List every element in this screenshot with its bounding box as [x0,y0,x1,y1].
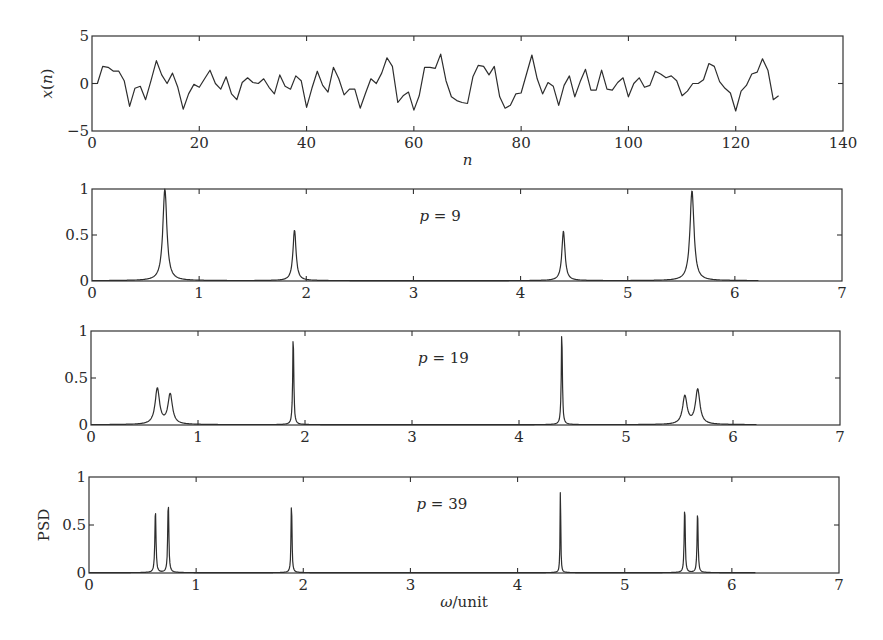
x-tick-label: 6 [730,284,740,302]
y-axis-label: x(n) [38,69,56,99]
x-tick-label: 6 [728,428,738,446]
axes-frame [91,331,840,425]
y-tick-label: −5 [67,122,89,140]
figure: 020406080100120140−505nx(n)0123456700.51… [0,0,883,640]
x-tick-label: 3 [409,284,419,302]
y-tick-label: 0 [79,75,89,93]
y-tick-label: 1 [78,322,88,340]
x-tick-label: 1 [194,284,204,302]
x-tick-label: 80 [512,134,531,152]
x-tick-label: 2 [302,284,312,302]
panel-time-series: 020406080100120140−505nx(n) [38,27,857,169]
x-tick-label: 2 [299,576,309,594]
x-tick-label: 40 [297,134,316,152]
x-tick-label: 3 [406,576,416,594]
panel-psd-p39: 0123456700.51p = 39ω/unitPSD [35,468,844,611]
y-tick-label: 0.5 [64,369,88,387]
y-tick-label: 0 [76,564,86,582]
x-tick-label: 140 [829,134,858,152]
x-tick-label: 7 [835,428,845,446]
x-tick-label: 5 [621,428,631,446]
y-axis-label: PSD [35,509,53,541]
x-tick-label: 7 [834,576,844,594]
x-tick-label: 1 [191,576,201,594]
x-tick-label: 4 [514,428,524,446]
x-tick-label: 6 [727,576,737,594]
x-tick-label: 60 [404,134,423,152]
order-annotation: p = 39 [416,495,467,513]
x-tick-label: 3 [407,428,417,446]
x-tick-label: 1 [193,428,203,446]
y-tick-label: 0.5 [65,226,89,244]
y-tick-label: 0 [79,272,89,290]
x-tick-label: 5 [620,576,630,594]
y-tick-label: 0.5 [62,516,86,534]
x-axis-label: n [463,151,473,169]
x-tick-label: 20 [190,134,209,152]
y-tick-label: 0 [78,416,88,434]
x-axis-label: ω/unit [440,593,487,611]
x-tick-label: 4 [513,576,523,594]
data-curve [92,189,758,281]
panel-psd-p9: 0123456700.51p = 9 [65,180,847,302]
y-tick-label: 1 [76,468,86,486]
order-annotation: p = 9 [419,207,460,225]
x-tick-label: 120 [721,134,750,152]
order-annotation: p = 19 [418,349,469,367]
x-tick-label: 100 [614,134,643,152]
axes-frame [92,36,843,131]
x-tick-label: 5 [623,284,633,302]
x-tick-label: 7 [837,284,847,302]
x-tick-label: 2 [300,428,310,446]
data-curve [92,54,779,111]
axes-frame [89,477,839,573]
axes-frame [92,189,842,281]
y-tick-label: 5 [79,27,89,45]
y-tick-label: 1 [79,180,89,198]
panel-psd-p19: 0123456700.51p = 19 [64,322,845,446]
x-tick-label: 4 [516,284,526,302]
